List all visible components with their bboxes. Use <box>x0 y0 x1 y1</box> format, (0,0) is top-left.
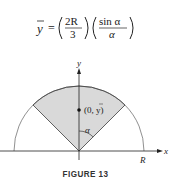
sector-diagram: y x R (0, y) α <box>0 0 171 183</box>
x-axis-label: x <box>163 146 168 156</box>
figure-caption: FIGURE 13 <box>9 169 163 179</box>
centroid-point <box>77 108 81 112</box>
y-axis-label: y <box>76 58 81 68</box>
y-axis-arrow-icon <box>77 68 81 74</box>
radius-label: R <box>139 155 146 165</box>
x-axis-arrow-icon <box>157 149 163 153</box>
angle-label: α <box>85 125 90 135</box>
centroid-label: (0, y) <box>84 105 104 115</box>
